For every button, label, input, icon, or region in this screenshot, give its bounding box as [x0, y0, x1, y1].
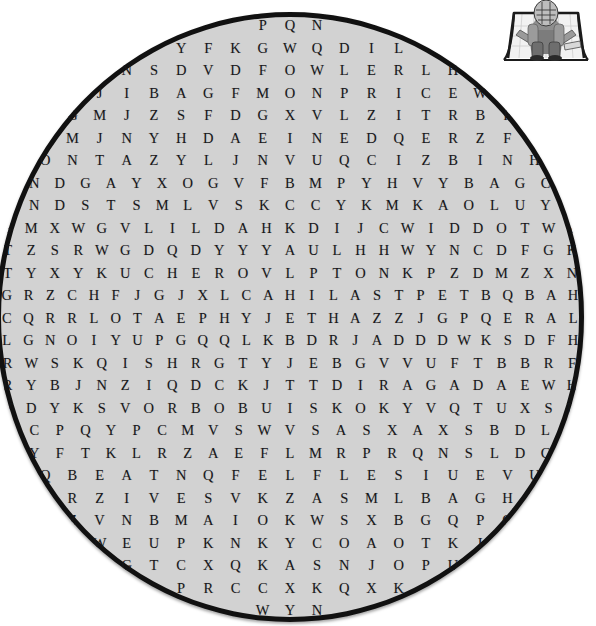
letter-cell[interactable]: T [86, 153, 113, 168]
letter-cell[interactable]: N [113, 63, 140, 78]
letter-cell[interactable]: U [140, 536, 167, 551]
letter-cell[interactable]: B [467, 108, 494, 123]
letter-cell[interactable]: N [443, 243, 467, 258]
letter-cell[interactable]: J [410, 311, 432, 326]
letter-cell[interactable]: R [323, 333, 345, 348]
letter-cell[interactable]: D [0, 423, 22, 438]
letter-cell[interactable]: L [276, 468, 303, 483]
letter-cell[interactable]: E [279, 311, 301, 326]
letter-cell[interactable]: D [466, 378, 490, 393]
letter-cell[interactable]: E [226, 446, 252, 461]
letter-cell[interactable]: Q [331, 581, 358, 596]
letter-cell[interactable]: U [114, 266, 138, 281]
letter-cell[interactable]: V [255, 266, 279, 281]
letter-cell[interactable]: J [170, 288, 192, 303]
letter-cell[interactable]: H [560, 378, 584, 393]
letter-cell[interactable]: O [105, 311, 127, 326]
letter-cell[interactable]: M [175, 423, 201, 438]
letter-cell[interactable]: O [32, 153, 59, 168]
letter-cell[interactable]: F [560, 356, 584, 371]
letter-cell[interactable]: G [208, 356, 232, 371]
letter-cell[interactable]: N [304, 86, 331, 101]
letter-cell[interactable]: C [372, 221, 396, 236]
letter-cell[interactable]: Y [276, 603, 303, 618]
letter-cell[interactable]: Z [443, 266, 467, 281]
letter-cell[interactable]: W [396, 221, 420, 236]
letter-cell[interactable]: R [5, 131, 32, 146]
letter-cell[interactable]: X [431, 423, 457, 438]
letter-cell[interactable]: I [467, 536, 494, 551]
letter-cell[interactable]: P [410, 288, 432, 303]
letter-cell[interactable]: D [507, 423, 533, 438]
letter-cell[interactable]: N [222, 536, 249, 551]
letter-cell[interactable]: P [148, 333, 170, 348]
letter-cell[interactable]: D [388, 333, 410, 348]
letter-cell[interactable]: F [304, 468, 331, 483]
letter-cell[interactable]: B [140, 513, 167, 528]
letter-cell[interactable]: Q [73, 423, 99, 438]
letter-cell[interactable]: R [328, 446, 354, 461]
letter-cell[interactable]: Q [161, 378, 185, 393]
letter-cell[interactable]: T [521, 131, 548, 146]
letter-cell[interactable]: M [358, 491, 385, 506]
letter-cell[interactable]: H [521, 153, 548, 168]
letter-cell[interactable]: V [140, 491, 167, 506]
letter-cell[interactable]: D [184, 378, 208, 393]
letter-cell[interactable]: K [249, 491, 276, 506]
letter-cell[interactable]: E [249, 468, 276, 483]
letter-cell[interactable]: L [325, 243, 349, 258]
letter-cell[interactable]: V [201, 198, 227, 213]
letter-cell[interactable]: G [201, 176, 227, 191]
letter-cell[interactable]: B [277, 176, 303, 191]
letter-cell[interactable]: P [412, 558, 439, 573]
letter-cell[interactable]: N [431, 446, 457, 461]
letter-cell[interactable]: G [0, 288, 18, 303]
letter-cell[interactable]: L [385, 41, 412, 56]
letter-cell[interactable]: F [195, 41, 222, 56]
letter-cell[interactable]: Q [385, 131, 412, 146]
letter-cell[interactable]: S [456, 446, 482, 461]
letter-cell[interactable]: I [385, 108, 412, 123]
letter-cell[interactable]: P [354, 446, 380, 461]
letter-cell[interactable]: E [249, 131, 276, 146]
letter-cell[interactable]: A [405, 423, 431, 438]
letter-cell[interactable]: A [366, 333, 388, 348]
letter-cell[interactable]: S [0, 446, 22, 461]
letter-cell[interactable]: S [303, 423, 329, 438]
letter-cell[interactable]: E [412, 131, 439, 146]
letter-cell[interactable]: R [358, 86, 385, 101]
letter-cell[interactable]: C [303, 198, 329, 213]
letter-cell[interactable]: Q [331, 153, 358, 168]
letter-cell[interactable]: T [466, 401, 490, 416]
letter-cell[interactable]: C [22, 423, 48, 438]
letter-cell[interactable]: K [354, 198, 380, 213]
letter-cell[interactable]: B [519, 288, 541, 303]
letter-cell[interactable]: D [208, 221, 232, 236]
letter-cell[interactable]: R [59, 491, 86, 506]
letter-cell[interactable]: T [453, 288, 475, 303]
letter-cell[interactable]: K [98, 446, 124, 461]
letter-cell[interactable]: Z [140, 108, 167, 123]
letter-cell[interactable]: R [67, 243, 91, 258]
letter-cell[interactable]: M [249, 86, 276, 101]
letter-cell[interactable]: P [124, 423, 150, 438]
letter-cell[interactable]: G [73, 176, 99, 191]
letter-cell[interactable]: H [349, 243, 373, 258]
letter-cell[interactable]: W [67, 221, 91, 236]
letter-cell[interactable]: L [412, 63, 439, 78]
letter-cell[interactable]: V [396, 356, 420, 371]
letter-cell[interactable]: H [83, 288, 105, 303]
letter-cell[interactable]: D [432, 333, 454, 348]
letter-cell[interactable]: D [466, 266, 490, 281]
letter-cell[interactable]: K [396, 266, 420, 281]
letter-cell[interactable]: O [61, 333, 83, 348]
letter-cell[interactable]: Y [521, 108, 548, 123]
letter-cell[interactable]: Y [354, 176, 380, 191]
letter-cell[interactable]: A [540, 288, 562, 303]
letter-cell[interactable]: Y [168, 153, 195, 168]
letter-cell[interactable]: C [533, 176, 559, 191]
letter-cell[interactable]: F [494, 131, 521, 146]
letter-cell[interactable]: R [440, 131, 467, 146]
letter-cell[interactable]: C [533, 446, 559, 461]
letter-cell[interactable]: S [302, 401, 326, 416]
